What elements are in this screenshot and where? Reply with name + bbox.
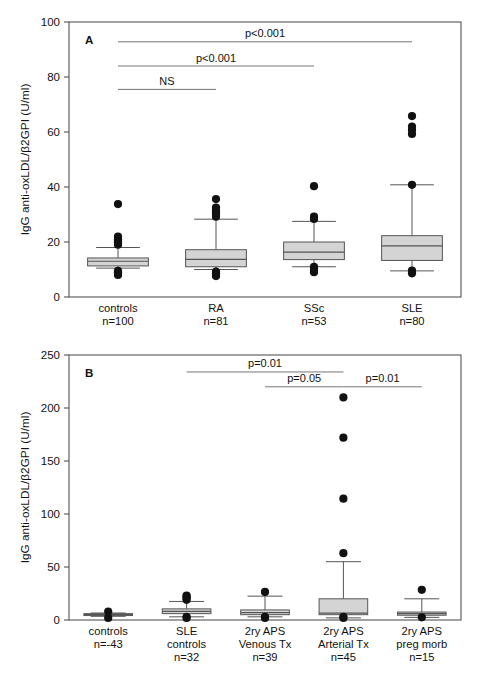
- figure-boxplots: 020406080100IgG anti-oxLDL/β2GPI (U/ml)A…: [0, 0, 483, 673]
- x-tick-label: SLE: [401, 302, 422, 314]
- x-tick-label: SSc: [304, 302, 325, 314]
- outlier-point: [408, 269, 416, 277]
- outlier-point: [310, 182, 318, 190]
- x-tick-label-group-4: 2ry APSArterial Txn=45: [318, 625, 369, 663]
- outlier-point: [114, 241, 122, 249]
- y-tick-label: 250: [41, 349, 60, 361]
- y-tick-label: 0: [54, 614, 60, 626]
- x-tick-label-group-2: SLEcontrolsn=32: [167, 625, 207, 663]
- boxplot-4: [382, 112, 443, 278]
- x-tick-label: controls: [167, 638, 207, 650]
- panel-a-plot: 020406080100IgG anti-oxLDL/β2GPI (U/ml)A…: [0, 0, 483, 340]
- x-tick-label: preg morb: [396, 638, 447, 650]
- y-tick-label: 200: [41, 402, 60, 414]
- outlier-point: [104, 614, 112, 622]
- x-tick-label-group-3: 2ry APSVenous Txn=39: [239, 625, 292, 663]
- x-tick-label-group-1: controlsn=-43: [89, 625, 129, 650]
- x-tick-label: n=32: [174, 651, 199, 663]
- boxplot-5: [397, 586, 446, 622]
- boxplot-2: [186, 195, 247, 280]
- x-tick-label: n=80: [399, 315, 424, 327]
- x-tick-label-group-1: controlsn=100: [98, 302, 138, 327]
- x-tick-label-group-4: SLEn=80: [399, 302, 424, 327]
- x-tick-label: n=39: [252, 651, 277, 663]
- outlier-point: [261, 588, 269, 596]
- y-tick-label: 0: [54, 291, 60, 303]
- x-tick-label: n=53: [301, 315, 326, 327]
- significance-label: p<0.001: [196, 52, 236, 64]
- y-tick-label: 20: [47, 236, 60, 248]
- boxplot-4: [319, 393, 368, 622]
- outlier-point: [339, 434, 347, 442]
- outlier-point: [183, 596, 191, 604]
- outlier-point: [310, 268, 318, 276]
- box-iqr: [186, 250, 247, 267]
- x-tick-label: n=81: [203, 315, 228, 327]
- x-tick-label: n=15: [409, 651, 434, 663]
- x-tick-label-group-2: RAn=81: [203, 302, 228, 327]
- significance-annotation-3: p=0.01: [343, 372, 421, 387]
- x-tick-label-group-5: 2ry APSpreg morbn=15: [396, 625, 447, 663]
- outlier-point: [339, 549, 347, 557]
- outlier-point: [212, 213, 220, 221]
- outlier-point: [310, 215, 318, 223]
- x-tick-label: RA: [208, 302, 224, 314]
- boxplot-3: [241, 588, 290, 622]
- panel-label: A: [85, 34, 93, 46]
- y-axis-title: IgG anti-oxLDL/β2GPI (U/ml): [18, 412, 32, 564]
- y-axis: 020406080100: [41, 16, 69, 303]
- box-iqr: [319, 599, 368, 615]
- significance-annotation-2: p=0.05: [265, 372, 343, 387]
- outlier-point: [261, 614, 269, 622]
- outlier-point: [212, 195, 220, 203]
- y-axis-title: IgG anti-oxLDL/β2GPI (U/ml): [18, 84, 32, 236]
- significance-label: p=0.01: [248, 357, 282, 369]
- x-tick-label: Arterial Tx: [318, 638, 369, 650]
- outlier-point: [339, 495, 347, 503]
- x-tick-label: SLE: [176, 625, 197, 637]
- panel-label: B: [85, 367, 93, 379]
- x-tick-label: n=100: [102, 315, 133, 327]
- panel-a: 020406080100IgG anti-oxLDL/β2GPI (U/ml)A…: [0, 0, 483, 340]
- x-tick-label-group-3: SScn=53: [301, 302, 326, 327]
- significance-annotation-1: NS: [118, 75, 216, 90]
- x-tick-label: controls: [89, 625, 129, 637]
- plot-frame: [69, 355, 461, 620]
- y-axis: 050100150200250: [41, 349, 69, 626]
- outlier-point: [114, 200, 122, 208]
- significance-annotation-1: p=0.01: [187, 357, 344, 372]
- outlier-point: [114, 271, 122, 279]
- outlier-point: [183, 614, 191, 622]
- x-tick-label: 2ry APS: [323, 625, 363, 637]
- significance-label: p<0.001: [245, 27, 285, 39]
- outlier-point: [408, 181, 416, 189]
- x-tick-label: Venous Tx: [239, 638, 292, 650]
- significance-annotation-2: p<0.001: [118, 52, 314, 67]
- box-iqr: [88, 258, 149, 266]
- outlier-point: [339, 614, 347, 622]
- outlier-point: [339, 393, 347, 401]
- x-tick-label: 2ry APS: [402, 625, 442, 637]
- y-tick-label: 40: [47, 181, 60, 193]
- y-tick-label: 50: [47, 561, 60, 573]
- outlier-point: [408, 130, 416, 138]
- outlier-point: [418, 586, 426, 594]
- x-tick-label: 2ry APS: [245, 625, 285, 637]
- boxplot-2: [162, 592, 211, 622]
- y-tick-label: 60: [47, 126, 60, 138]
- outlier-point: [212, 272, 220, 280]
- boxplot-1: [88, 200, 149, 279]
- significance-annotation-3: p<0.001: [118, 27, 412, 42]
- y-tick-label: 100: [41, 16, 60, 28]
- panel-b-plot: 050100150200250IgG anti-oxLDL/β2GPI (U/m…: [0, 333, 483, 673]
- y-tick-label: 100: [41, 508, 60, 520]
- x-tick-label: n=45: [331, 651, 356, 663]
- box-iqr: [284, 242, 345, 260]
- y-tick-label: 80: [47, 71, 60, 83]
- significance-label: NS: [159, 75, 174, 87]
- outlier-point: [418, 613, 426, 621]
- significance-label: p=0.01: [366, 372, 400, 384]
- boxplot-3: [284, 182, 345, 276]
- box-iqr: [382, 236, 443, 261]
- y-tick-label: 150: [41, 455, 60, 467]
